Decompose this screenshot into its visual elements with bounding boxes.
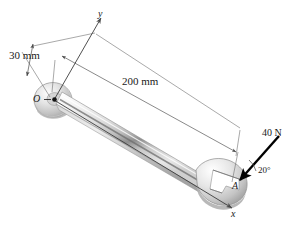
figure-canvas: 30 mm 200 mm y x O A 40 N 20° (0, 0, 298, 238)
point-label-O: O (33, 94, 40, 104)
origin-point-marker (52, 97, 57, 102)
dim-ref-line-200mm (96, 34, 240, 128)
dimension-label-200mm: 200 mm (122, 76, 158, 87)
shaft-groove (60, 100, 201, 183)
y-axis-line (54, 18, 101, 100)
dim-line-200mm (62, 56, 236, 152)
wrench-shaft (56, 92, 209, 192)
shaft-specular-highlight (62, 96, 204, 179)
wrench-body (33, 82, 247, 210)
dimension-label-30mm: 30 mm (9, 50, 40, 61)
axis-label-x: x (231, 209, 235, 219)
wrench-diagram-svg (0, 0, 298, 238)
point-label-A: A (232, 181, 238, 191)
axis-label-y: y (98, 9, 102, 19)
force-label-40N: 40 N (262, 128, 282, 138)
x-axis-line (54, 100, 232, 208)
angle-label-20deg: 20° (258, 166, 271, 175)
shaft-lower-face (56, 104, 199, 192)
